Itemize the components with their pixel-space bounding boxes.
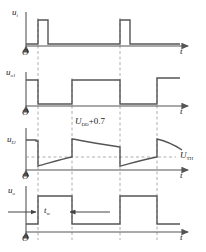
trace-ui-axis-label: t xyxy=(180,47,183,56)
trace-ui-origin-label: O xyxy=(22,48,29,57)
trace-ui2-axes xyxy=(26,128,188,170)
trace-uo-axes xyxy=(26,186,188,232)
trace-ui2-axis-label: t xyxy=(180,171,183,180)
udd-level-label: UDD+0.7 xyxy=(75,117,105,126)
pulse-width-label: tw xyxy=(44,206,50,215)
uth-threshold-label: UTH xyxy=(180,151,193,160)
trace-uo1-origin-label: O xyxy=(22,108,29,117)
waveform-canvas xyxy=(0,0,206,252)
trace-ui2-origin-label: O xyxy=(22,172,29,181)
trace-ui-waveform xyxy=(26,20,180,44)
trace-ui-signal-label: ui xyxy=(12,8,18,17)
trace-uo-axis-label: t xyxy=(180,233,183,242)
timing-diagram-figure: ui O t uo1 O t uI2 O t UDD+0.7 UTH uo O … xyxy=(0,0,206,252)
trace-uo-origin-label: O xyxy=(22,234,29,243)
trace-ui2-waveform xyxy=(26,139,182,166)
trace-uo1-waveform xyxy=(26,78,180,104)
trace-uo1-signal-label: uo1 xyxy=(6,68,16,77)
trace-uo1-axes xyxy=(26,72,188,106)
trace-ui2-signal-label: uI2 xyxy=(7,135,16,144)
trace-ui-axes xyxy=(26,12,188,46)
trace-uo1-axis-label: t xyxy=(180,107,183,116)
vertical-guide-lines xyxy=(38,18,157,240)
trace-uo-signal-label: uo xyxy=(8,186,15,195)
